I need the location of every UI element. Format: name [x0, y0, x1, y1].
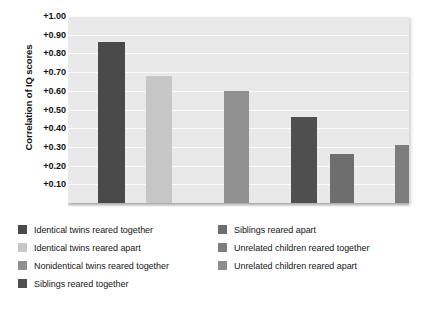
legend-swatch-icon: [218, 225, 227, 234]
plot-area: [68, 16, 409, 203]
legend-swatch-icon: [18, 261, 27, 270]
axis-baseline: [68, 203, 409, 207]
legend-item[interactable]: Unrelated children reared apart: [218, 257, 423, 274]
legend-item[interactable]: Siblings reared apart: [218, 221, 423, 238]
y-tick-label: +0.60: [24, 86, 66, 96]
legend-swatch-icon: [218, 261, 227, 270]
y-tick-label: +0.90: [24, 30, 66, 40]
legend-item-label: Siblings reared together: [34, 279, 128, 289]
y-tick-label: +0.50: [24, 105, 66, 115]
legend-item[interactable]: Siblings reared together: [18, 275, 218, 292]
legend-swatch-icon: [218, 243, 227, 252]
legend-item-label: Unrelated children reared apart: [234, 261, 357, 271]
legend-item-label: Nonidentical twins reared together: [34, 261, 169, 271]
bar: [330, 154, 354, 203]
y-tick-label: +1.00: [24, 11, 66, 21]
chart-plot-region: Correlation of IQ scores +1.00+0.90+0.80…: [0, 0, 427, 215]
bar: [146, 76, 172, 203]
figure: Correlation of IQ scores +1.00+0.90+0.80…: [0, 0, 427, 309]
legend-item-label: Identical twins reared together: [34, 225, 153, 235]
bar: [98, 42, 125, 203]
bar: [224, 91, 249, 203]
y-axis-tick-labels: +1.00+0.90+0.80+0.70+0.60+0.50+0.40+0.30…: [24, 16, 66, 203]
bar: [291, 117, 317, 203]
legend-item[interactable]: Unrelated children reared together: [218, 239, 423, 256]
legend-item-label: Siblings reared apart: [234, 225, 316, 235]
legend-column-right: Siblings reared apartUnrelated children …: [218, 221, 423, 275]
y-tick-label: +0.80: [24, 48, 66, 58]
y-tick-label: +0.70: [24, 67, 66, 77]
bar: [395, 145, 409, 203]
legend-swatch-icon: [18, 243, 27, 252]
legend-swatch-icon: [18, 225, 27, 234]
y-tick-label: +0.10: [24, 179, 66, 189]
legend-item-label: Identical twins reared apart: [34, 243, 141, 253]
legend-item-label: Unrelated children reared together: [234, 243, 369, 253]
legend-item[interactable]: Identical twins reared apart: [18, 239, 218, 256]
legend-swatch-icon: [18, 279, 27, 288]
bar-series: [68, 16, 409, 203]
y-tick-label: +0.20: [24, 161, 66, 171]
legend-column-left: Identical twins reared togetherIdentical…: [18, 221, 218, 293]
legend: Identical twins reared togetherIdentical…: [18, 221, 418, 307]
y-tick-label: +0.30: [24, 142, 66, 152]
legend-item[interactable]: Identical twins reared together: [18, 221, 218, 238]
y-tick-label: +0.40: [24, 123, 66, 133]
legend-item[interactable]: Nonidentical twins reared together: [18, 257, 218, 274]
